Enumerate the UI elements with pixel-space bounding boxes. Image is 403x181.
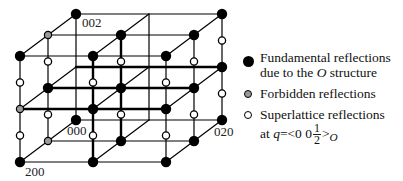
- superlattice-reflection-dot: [16, 132, 23, 139]
- superlattice-reflection-dot: [117, 111, 124, 118]
- fundamental-reflection-dot: [189, 30, 199, 40]
- superlattice-reflection-dot: [218, 90, 225, 97]
- forbidden-reflection-dot: [44, 31, 51, 38]
- superlattice-reflection-dot: [162, 132, 169, 139]
- legend-fundamental: Fundamental reflections due to the O str…: [242, 50, 403, 80]
- legend-forbidden-label: Forbidden reflections: [260, 86, 403, 101]
- fundamental-reflection-dot: [88, 51, 98, 61]
- legend-text: due to the: [260, 65, 317, 80]
- fundamental-reflection-dot: [161, 51, 171, 61]
- fundamental-reflection-dot: [161, 157, 171, 167]
- forbidden-marker-icon: [244, 90, 252, 98]
- symbol-o: O: [317, 65, 327, 80]
- legend-forbidden: Forbidden reflections: [242, 86, 403, 101]
- fundamental-reflection-dot: [217, 9, 227, 19]
- superlattice-reflection-dot: [190, 111, 197, 118]
- fundamental-reflection-dot: [189, 136, 199, 146]
- fundamental-reflection-dot: [161, 104, 171, 114]
- legend-superlattice-line2: at q=<0 012>O: [260, 123, 403, 146]
- symbol-q: q: [273, 126, 280, 141]
- symbol-o-subscript: O: [330, 131, 338, 143]
- superlattice-reflection-dot: [89, 132, 96, 139]
- fundamental-marker-icon: [243, 56, 254, 67]
- lattice-nodes: [15, 9, 227, 167]
- legend-text: =<0 0: [280, 126, 312, 141]
- forbidden-reflection-dot: [16, 105, 23, 112]
- fundamental-reflection-dot: [71, 9, 81, 19]
- fraction-denominator: 2: [313, 135, 321, 146]
- fundamental-reflection-dot: [116, 136, 126, 146]
- superlattice-reflection-dot: [218, 37, 225, 44]
- superlattice-reflection-dot: [89, 79, 96, 86]
- forbidden-reflection-dot: [44, 137, 51, 144]
- legend-fundamental-line2: due to the O structure: [260, 65, 403, 80]
- legend-text: at: [260, 126, 273, 141]
- fundamental-reflection-dot: [88, 157, 98, 167]
- legend-superlattice: Superlattice reflections at q=<0 012>O: [242, 107, 403, 146]
- superlattice-reflection-dot: [162, 79, 169, 86]
- fundamental-reflection-dot: [217, 62, 227, 72]
- superlattice-reflection-dot: [44, 111, 51, 118]
- legend: Fundamental reflections due to the O str…: [242, 50, 403, 146]
- label-020: 020: [214, 124, 234, 139]
- fundamental-reflection-dot: [88, 104, 98, 114]
- fundamental-reflection-dot: [43, 83, 53, 93]
- superlattice-reflection-dot: [117, 58, 124, 65]
- label-002: 002: [82, 15, 102, 30]
- superlattice-marker-icon: [244, 111, 252, 119]
- superlattice-reflection-dot: [190, 58, 197, 65]
- fundamental-reflection-dot: [116, 30, 126, 40]
- label-200: 200: [25, 164, 45, 179]
- fundamental-reflection-dot: [116, 83, 126, 93]
- legend-fundamental-line1: Fundamental reflections: [260, 50, 403, 65]
- legend-text: structure: [326, 65, 377, 80]
- fundamental-reflection-dot: [15, 51, 25, 61]
- label-000: 000: [67, 123, 87, 138]
- superlattice-reflection-dot: [16, 79, 23, 86]
- legend-text: >: [322, 126, 330, 141]
- superlattice-reflection-dot: [44, 58, 51, 65]
- legend-superlattice-line1: Superlattice reflections: [260, 107, 403, 122]
- fundamental-reflection-dot: [189, 83, 199, 93]
- fundamental-reflection-dot: [15, 157, 25, 167]
- fraction-one-half: 12: [313, 123, 321, 146]
